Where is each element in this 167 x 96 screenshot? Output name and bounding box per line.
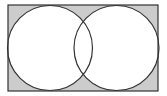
shaded-complement-region xyxy=(8,5,158,91)
venn-diagram xyxy=(0,0,167,96)
